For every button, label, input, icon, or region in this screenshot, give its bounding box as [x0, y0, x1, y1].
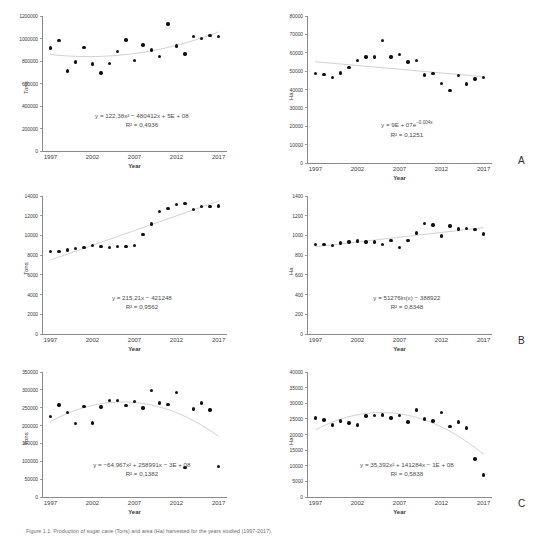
- y-tick-label: 4000: [0, 292, 38, 298]
- data-point: [389, 239, 392, 242]
- x-axis-title: Year: [380, 346, 420, 352]
- y-tick: [40, 314, 42, 315]
- data-point: [183, 202, 186, 205]
- x-axis: [307, 334, 492, 335]
- data-point: [192, 35, 195, 38]
- y-axis: [42, 196, 43, 334]
- data-point: [356, 423, 359, 426]
- y-tick: [305, 163, 307, 164]
- data-point: [166, 207, 169, 210]
- y-tick: [305, 126, 307, 127]
- data-point: [82, 246, 85, 249]
- y-tick-label: 8000: [0, 252, 38, 258]
- y-tick: [40, 294, 42, 295]
- data-point: [423, 417, 426, 420]
- data-point: [66, 69, 69, 72]
- equation-text: y = 9E + 07e−0,004x: [333, 119, 481, 130]
- y-tick-label: 10000: [265, 142, 303, 148]
- y-axis-title: Ha: [288, 92, 294, 100]
- x-tick-label: 1997: [299, 337, 331, 343]
- y-tick-label: 60000: [265, 50, 303, 56]
- data-point: [373, 414, 376, 417]
- y-tick: [305, 144, 307, 145]
- panel-letter-c: C: [518, 498, 525, 509]
- y-tick-label: 0: [0, 148, 38, 154]
- x-tick-label: 2007: [119, 500, 151, 506]
- data-point: [339, 71, 342, 74]
- x-tick-label: 1997: [299, 166, 331, 172]
- y-tick-label: 35000: [265, 385, 303, 391]
- data-point: [49, 46, 52, 49]
- data-point: [440, 82, 443, 85]
- data-point: [473, 77, 476, 80]
- equation-label: y = 215,21x − 421248R² = 0,9562: [68, 293, 216, 312]
- trend-line: [0, 0, 537, 537]
- data-point: [473, 457, 476, 460]
- y-tick: [40, 372, 42, 373]
- x-axis-title: Year: [115, 346, 155, 352]
- y-tick: [40, 196, 42, 197]
- data-point: [314, 416, 317, 419]
- y-tick-label: 800000: [0, 58, 38, 64]
- x-axis-title: Year: [115, 509, 155, 515]
- data-point: [431, 223, 434, 226]
- y-tick-label: 600: [265, 272, 303, 278]
- data-point: [423, 73, 426, 76]
- x-axis-title: Year: [380, 509, 420, 515]
- data-point: [133, 244, 136, 247]
- y-tick-label: 20000: [265, 432, 303, 438]
- data-point: [150, 389, 153, 392]
- y-tick-label: 10000: [265, 463, 303, 469]
- x-tick-label: 2012: [161, 337, 193, 343]
- y-axis-title: Tons: [23, 432, 29, 445]
- y-axis: [307, 196, 308, 334]
- y-tick: [305, 71, 307, 72]
- data-point: [457, 420, 460, 423]
- y-tick: [40, 61, 42, 62]
- data-point: [74, 422, 77, 425]
- data-point: [356, 59, 359, 62]
- data-point: [465, 426, 468, 429]
- y-tick-label: 25000: [265, 416, 303, 422]
- y-tick: [305, 16, 307, 17]
- data-point: [208, 408, 211, 411]
- y-tick: [40, 106, 42, 107]
- data-point: [389, 55, 392, 58]
- data-point: [322, 243, 325, 246]
- data-point: [448, 425, 451, 428]
- data-point: [91, 421, 94, 424]
- y-tick: [305, 255, 307, 256]
- x-tick-label: 2012: [161, 500, 193, 506]
- y-tick-label: 200: [265, 311, 303, 317]
- y-tick-label: 30000: [265, 105, 303, 111]
- data-point: [373, 240, 376, 243]
- x-tick-label: 1997: [34, 337, 66, 343]
- data-point: [183, 52, 186, 55]
- data-point: [217, 35, 220, 38]
- data-point: [364, 240, 367, 243]
- data-point: [175, 203, 178, 206]
- y-tick-label: 6000: [0, 272, 38, 278]
- data-point: [415, 59, 418, 62]
- data-point: [141, 233, 144, 236]
- plot-panel-a-ha: 0100002000030000400005000060000700008000…: [0, 0, 537, 537]
- data-point: [465, 82, 468, 85]
- panel-letter-a: A: [518, 155, 525, 166]
- r-squared-text: R² = 0,9562: [68, 302, 216, 312]
- data-point: [192, 208, 195, 211]
- y-tick: [40, 461, 42, 462]
- y-tick: [305, 481, 307, 482]
- y-axis-title: Ha: [288, 437, 294, 445]
- data-point: [49, 415, 52, 418]
- y-tick-label: 5000: [265, 478, 303, 484]
- y-axis: [307, 16, 308, 163]
- y-tick-label: 40000: [265, 87, 303, 93]
- x-tick-label: 2012: [426, 166, 458, 172]
- y-tick: [40, 389, 42, 390]
- x-tick-label: 2017: [468, 337, 500, 343]
- data-point: [99, 405, 102, 408]
- plot-panel-a-tons: 0200000400000600000800000100000012000001…: [0, 0, 537, 537]
- x-axis-title: Year: [380, 175, 420, 181]
- data-point: [331, 244, 334, 247]
- y-axis-title: Tons: [23, 262, 29, 275]
